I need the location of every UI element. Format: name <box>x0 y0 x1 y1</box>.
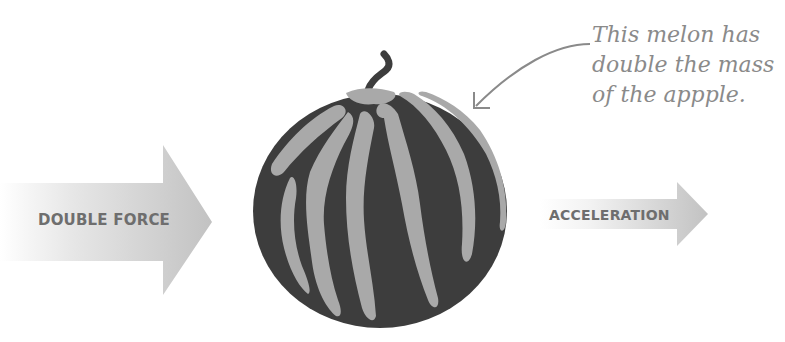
double-force-label: DOUBLE FORCE <box>38 211 170 229</box>
annotation-line-3: of the appple. <box>592 80 782 110</box>
annotation-line-1: This melon has <box>592 20 782 50</box>
annotation-line-2: double the mass <box>592 50 782 80</box>
acceleration-label: ACCELERATION <box>549 207 670 223</box>
curved-arrow-icon <box>460 30 600 120</box>
annotation-text: This melon has double the mass of the ap… <box>592 20 782 110</box>
